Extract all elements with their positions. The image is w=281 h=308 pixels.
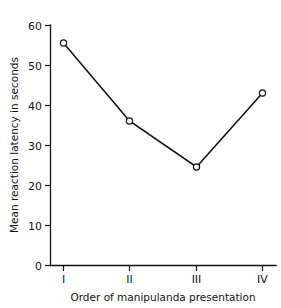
x-tick-label: IV <box>257 273 268 286</box>
y-tick-label: 0 <box>35 260 42 273</box>
y-axis-tick-labels: 60 50 40 30 20 10 0 <box>28 20 42 273</box>
data-series-line <box>64 43 263 167</box>
chart-figure: 60 50 40 30 20 10 0 I II III IV <box>0 0 281 308</box>
y-tick-label: 40 <box>28 100 42 113</box>
y-tick-label: 60 <box>28 20 42 33</box>
x-axis-ticks <box>64 266 263 272</box>
y-axis-title: Mean reaction latency in seconds <box>8 57 20 233</box>
y-tick-label: 50 <box>28 60 42 73</box>
y-tick-label: 10 <box>28 220 42 233</box>
x-tick-label: I <box>62 273 65 286</box>
x-tick-label: III <box>192 273 202 286</box>
line-chart: 60 50 40 30 20 10 0 I II III IV <box>0 0 281 308</box>
data-point-marker <box>126 118 132 124</box>
data-point-marker <box>193 164 199 170</box>
data-point-marker <box>259 90 265 96</box>
y-tick-label: 20 <box>28 180 42 193</box>
data-point-marker <box>60 40 66 46</box>
x-axis-tick-labels: I II III IV <box>62 273 268 286</box>
x-axis-title: Order of manipulanda presentation <box>70 291 255 303</box>
data-markers <box>60 40 265 170</box>
y-tick-label: 30 <box>28 140 42 153</box>
y-axis-ticks <box>45 26 51 266</box>
x-tick-label: II <box>126 273 133 286</box>
